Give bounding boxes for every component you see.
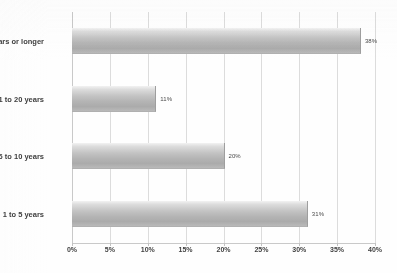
x-tick-label-8: 40% [368, 246, 382, 253]
bar-value-3: 31% [312, 211, 324, 217]
bar-row: 11 to 20 years 11% [72, 70, 375, 128]
gridline-40 [375, 12, 376, 243]
bar-3 [72, 201, 308, 227]
x-tick-label-0: 0% [67, 246, 77, 253]
x-tick-label-1: 5% [105, 246, 115, 253]
category-label-1: 11 to 20 years [0, 94, 44, 103]
bar-1 [72, 86, 156, 112]
category-label-2: 6 to 10 years [0, 152, 44, 161]
x-tick-label-5: 25% [254, 246, 268, 253]
bar-value-0: 38% [365, 38, 377, 44]
bar-row: 6 to 10 years 20% [72, 128, 375, 186]
x-tick-label-4: 20% [216, 246, 230, 253]
category-label-0: 21 years or longer [0, 36, 44, 45]
x-tick-label-7: 35% [330, 246, 344, 253]
bar-row: 1 to 5 years 31% [72, 185, 375, 243]
category-label-3: 1 to 5 years [3, 210, 44, 219]
bar-chart: 21 years or longer 38% 11 to 20 years 11… [0, 0, 397, 273]
bar-row: 21 years or longer 38% [72, 12, 375, 70]
x-tick-label-6: 30% [292, 246, 306, 253]
plot-area: 21 years or longer 38% 11 to 20 years 11… [72, 12, 375, 243]
x-tick-label-2: 10% [141, 246, 155, 253]
bar-2 [72, 143, 225, 169]
x-tick-label-3: 15% [179, 246, 193, 253]
bar-value-1: 11% [160, 96, 172, 102]
bar-value-2: 20% [229, 153, 241, 159]
bar-0 [72, 28, 361, 54]
